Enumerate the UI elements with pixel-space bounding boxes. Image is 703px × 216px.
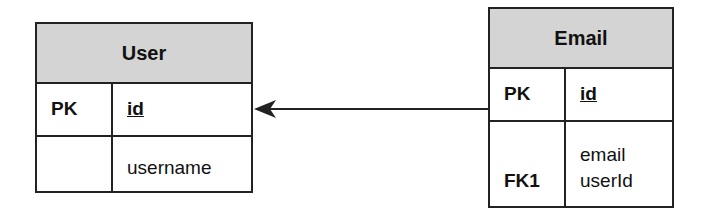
- relationship-arrow: [0, 0, 703, 216]
